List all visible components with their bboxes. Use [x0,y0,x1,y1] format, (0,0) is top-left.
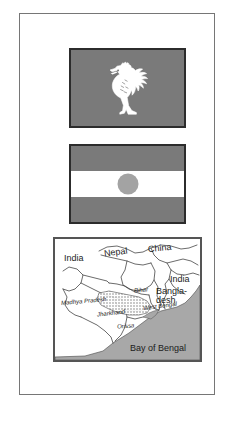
niger-flag-stripe-bottom [71,197,184,222]
niger-flag-field [69,144,186,224]
rooster-emblem-icon [106,60,150,116]
niger-flag-disc-icon [117,173,138,194]
page-frame: India Nepal China India Bangla- desh Bih… [19,13,215,395]
figure-rooster-flag [69,48,186,128]
map-frame: India Nepal China India Bangla- desh Bih… [53,237,202,362]
niger-flag-stripe-top [71,146,184,171]
rooster-flag-field [69,48,186,128]
niger-flag-stripe-middle [71,171,184,196]
map-graphic [55,239,200,360]
figure-map: India Nepal China India Bangla- desh Bih… [53,237,202,362]
figure-niger-flag [69,144,186,224]
